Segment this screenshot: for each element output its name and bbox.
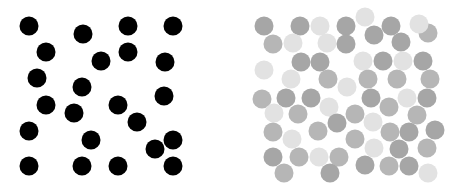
gray-dot-dark [365,26,384,45]
gray-dot-dark [337,17,356,36]
gray-dot-light [310,148,329,167]
black-dot [156,53,175,72]
gray-dot-mid [359,70,378,89]
gray-dot-mid [264,123,283,142]
gray-dot-dark [292,53,311,72]
gray-dot-light [311,17,330,36]
gray-dot-dark [426,121,445,140]
gray-dot-dark [392,33,411,52]
gray-dot-mid [289,105,308,124]
gray-dot-dark [390,140,409,159]
gray-dot-mid [346,130,365,149]
black-dot [109,96,128,115]
gray-dot-mid [381,123,400,142]
gray-dot-light [394,52,413,71]
gray-dot-dark [264,148,283,167]
gray-dot-light [398,89,417,108]
gray-dot-mid [319,70,338,89]
gray-dot-dark [400,123,419,142]
black-dot [73,157,92,176]
gray-dot-mid [380,98,399,117]
gray-dot-light [354,52,373,71]
gray-dot-light [365,139,384,158]
gray-dot-mid [330,148,349,167]
black-dot [92,52,111,71]
black-dot [119,17,138,36]
gray-dot-mid [275,164,294,183]
black-dot [109,157,128,176]
gray-dot-dark [277,89,296,108]
gray-dot-mid [290,148,309,167]
gray-dot-dark [414,52,433,71]
gray-dot-light [265,104,284,123]
black-dots-graphic [0,0,230,190]
black-dot [37,43,56,62]
black-dot [82,131,101,150]
black-dot [65,104,84,123]
black-dot [164,17,183,36]
gray-dot-light [356,8,375,27]
gray-dot-mid [388,70,407,89]
gray-dot-dark [321,164,340,183]
gray-dot-mid [309,122,328,141]
gray-dot-dark [374,52,393,71]
black-dot [73,78,92,97]
black-dot [164,131,183,150]
black-dot [20,122,39,141]
black-dot [146,140,165,159]
gray-dot-mid [346,105,365,124]
gray-dot-dark [362,89,381,108]
black-dot [128,113,147,132]
gray-dot-light [364,113,383,132]
gray-dot-dark [356,156,375,175]
gray-dot-light [255,61,274,80]
gray-dots-panel [230,0,461,190]
gray-dot-dark [382,17,401,36]
gray-dot-mid [380,157,399,176]
gray-dot-mid [408,106,427,125]
gray-dot-mid [264,35,283,54]
gray-dot-mid [418,139,437,158]
black-dot [74,25,93,44]
gray-dot-light [282,70,301,89]
black-dot [28,69,47,88]
black-dot [164,157,183,176]
gray-dot-dark [418,89,437,108]
gray-dot-mid [421,70,440,89]
gray-dot-dark [255,17,274,36]
gray-dot-dark [302,89,321,108]
black-dots-panel [0,0,230,190]
gray-dot-dark [328,114,347,133]
gray-dot-light [338,78,357,97]
gray-dot-dark [337,35,356,54]
black-dot [20,157,39,176]
gray-dot-light [419,164,438,183]
black-dot [20,17,39,36]
gray-dot-dark [291,17,310,36]
gray-dot-light [410,15,429,34]
gray-dot-light [318,34,337,53]
gray-dots-graphic [230,0,461,190]
black-dot [119,43,138,62]
black-dot [37,96,56,115]
gray-dot-light [284,34,303,53]
gray-dot-dark [400,157,419,176]
gray-dot-dark [311,53,330,72]
black-dot [155,87,174,106]
gray-dot-light [283,130,302,149]
